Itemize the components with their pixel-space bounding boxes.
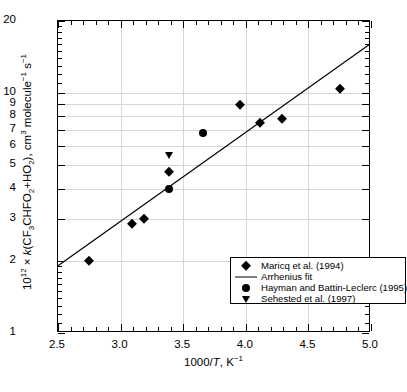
x-axis-title: 1000/T, K−1 bbox=[57, 356, 370, 368]
circle-marker bbox=[199, 129, 207, 137]
legend-label: Sehested et al. (1997) bbox=[261, 294, 355, 304]
y-tick-label: 3 bbox=[0, 212, 16, 224]
triangle-down-marker bbox=[165, 153, 173, 160]
y-tick-label: 7 bbox=[0, 123, 16, 135]
x-tick-label: 5.0 bbox=[350, 339, 390, 351]
y-tick-label: 6 bbox=[0, 139, 16, 151]
x-tick-label: 4.0 bbox=[225, 339, 265, 351]
diamond-marker-icon bbox=[231, 260, 261, 271]
y-tick-label: 5 bbox=[0, 158, 16, 170]
legend-item-hayman: Hayman and Battin-Leclerc (1995) bbox=[231, 282, 405, 293]
y-tick-major bbox=[58, 333, 65, 334]
plot-area: Maricq et al. (1994) Arrhenius fit Hayma… bbox=[57, 20, 370, 332]
circle-marker bbox=[165, 185, 173, 193]
legend-label: Arrhenius fit bbox=[261, 272, 312, 282]
figure-caption bbox=[0, 382, 394, 392]
y-tick-major bbox=[362, 333, 369, 334]
x-tick-major bbox=[371, 21, 372, 28]
x-tick-label: 3.5 bbox=[162, 339, 202, 351]
legend-item-arrhenius-fit: Arrhenius fit bbox=[231, 271, 405, 282]
x-tick-label: 4.5 bbox=[287, 339, 327, 351]
legend-item-sehested: Sehested et al. (1997) bbox=[231, 293, 405, 304]
y-tick-label: 2 bbox=[0, 254, 16, 266]
x-tick-label: 2.5 bbox=[37, 339, 77, 351]
y-tick-label: 20 bbox=[0, 14, 16, 26]
triangle-down-marker-icon bbox=[231, 293, 261, 304]
legend-label: Maricq et al. (1994) bbox=[261, 261, 344, 271]
y-tick-label: 9 bbox=[0, 97, 16, 109]
circle-marker-icon bbox=[231, 282, 261, 293]
y-tick-label: 4 bbox=[0, 182, 16, 194]
y-tick-label: 10 bbox=[0, 86, 16, 98]
y-tick-label: 1 bbox=[0, 326, 16, 338]
x-tick-label: 3.0 bbox=[100, 339, 140, 351]
x-tick-major bbox=[371, 324, 372, 331]
legend-label: Hayman and Battin-Leclerc (1995) bbox=[261, 283, 407, 293]
legend: Maricq et al. (1994) Arrhenius fit Hayma… bbox=[230, 257, 406, 304]
y-tick-label: 8 bbox=[0, 109, 16, 121]
legend-item-maricq: Maricq et al. (1994) bbox=[231, 260, 405, 271]
y-axis-title: 1012 × k(CF3CHFO2+HO2), cm3 molecule−1 s… bbox=[21, 22, 33, 322]
line-sample-icon bbox=[231, 271, 261, 282]
